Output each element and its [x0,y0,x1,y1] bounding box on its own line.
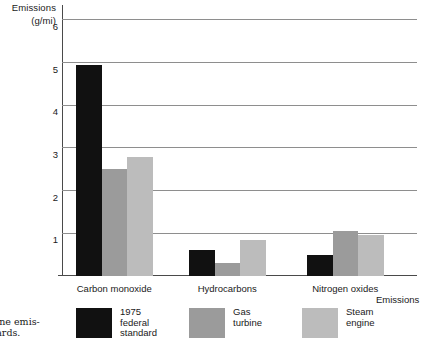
y-tick-label-5: 5 [46,65,58,75]
bar-nitrogen-oxides-steam-engine [358,235,384,276]
legend-swatch-steam-engine [302,308,338,338]
bar-carbon-monoxide-gas-turbine [102,169,128,276]
gridline-5 [62,62,417,63]
legend-label-line2: turbine [233,318,262,329]
y-tick-label-6: 6 [46,22,58,32]
legend-label-line3: standard [120,328,157,339]
chart-page: Emissions (g/mi) 123456 Carbon monoxideH… [0,0,423,342]
figure-caption-line2: ndards. [0,327,58,338]
category-label-carbon-monoxide: Carbon monoxide [56,283,173,294]
legend-label-line2: engine [346,318,375,329]
y-tick-label-3: 3 [46,150,58,160]
legend-label-1975-federal-standard: 1975federalstandard [120,307,157,339]
figure-caption-line1: ngine emis- [0,316,58,327]
bar-carbon-monoxide-1975-federal-standard [76,65,102,276]
legend-label-line1: Steam [346,307,375,318]
y-tick-label-4: 4 [46,107,58,117]
legend-label-gas-turbine: Gasturbine [233,307,262,328]
category-label-nitrogen-oxides: Nitrogen oxides [287,283,404,294]
bar-nitrogen-oxides-1975-federal-standard [307,255,333,276]
gridline-4 [62,105,417,106]
legend-swatch-1975-federal-standard [76,308,112,338]
legend-swatch-gas-turbine [189,308,225,338]
category-label-hydrocarbons: Hydrocarbons [169,283,286,294]
gridline-3 [62,147,417,148]
legend-label-line1: 1975 [120,307,157,318]
gridline-6 [62,19,417,20]
plot-area: 123456 Carbon monoxideHydrocarbonsNitrog… [62,5,417,276]
legend-label-line1: Gas [233,307,262,318]
y-tick-label-1: 1 [46,235,58,245]
bar-nitrogen-oxides-gas-turbine [333,231,359,276]
bar-hydrocarbons-steam-engine [240,240,266,276]
legend-label-steam-engine: Steamengine [346,307,375,328]
x-axis-title: Emissions [376,294,419,305]
figure-caption: ngine emis- ndards. [0,316,58,338]
legend: 1975federalstandardGasturbineSteamengine [0,308,423,342]
bar-hydrocarbons-1975-federal-standard [189,250,215,276]
y-axis-title-line1: Emissions [0,2,56,15]
bar-hydrocarbons-gas-turbine [215,263,241,276]
bar-carbon-monoxide-steam-engine [127,157,153,276]
y-tick-label-2: 2 [46,193,58,203]
y-axis-line [62,5,63,276]
